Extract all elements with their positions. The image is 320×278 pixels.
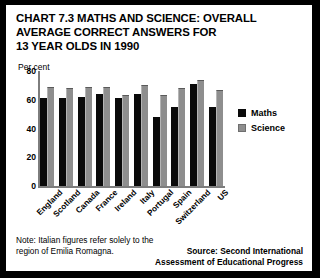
y-tick-0: 0: [14, 181, 36, 191]
bar-group: [209, 71, 225, 186]
legend-swatch-science-icon: [238, 124, 246, 132]
bar-series-area: [40, 71, 225, 186]
bar-maths: [190, 84, 197, 186]
bar-science: [47, 87, 54, 186]
bar-maths: [134, 94, 141, 186]
legend-swatch-maths-icon: [238, 109, 246, 117]
bar-group: [59, 71, 75, 186]
bar-group: [78, 71, 94, 186]
bar-science: [85, 87, 92, 186]
bar-maths: [171, 107, 178, 186]
bar-maths: [78, 97, 85, 186]
bar-group: [96, 71, 112, 186]
bar-science: [160, 95, 167, 186]
y-axis-ticks: 806040200: [10, 71, 36, 187]
bar-maths: [96, 94, 103, 186]
chart-title: CHART 7.3 MATHS AND SCIENCE: OVERALL AVE…: [16, 11, 308, 54]
chart-title-line-3: 13 YEAR OLDS IN 1990: [16, 39, 308, 53]
bar-science: [197, 80, 204, 186]
bar-science: [66, 88, 73, 186]
bar-group: [190, 71, 206, 186]
bar-group: [40, 71, 56, 186]
x-axis-labels: EnglandScotlandCanadaFranceIrelandItalyP…: [40, 188, 225, 230]
bar-group: [115, 71, 131, 186]
y-tick-60: 60: [14, 95, 36, 105]
bar-science: [178, 88, 185, 186]
bar-maths: [209, 107, 216, 186]
y-tick-40: 40: [14, 124, 36, 134]
bar-science: [141, 85, 148, 186]
chart-card: CHART 7.3 MATHS AND SCIENCE: OVERALL AVE…: [4, 3, 314, 273]
bar-group: [134, 71, 150, 186]
bar-maths: [153, 117, 160, 186]
bar-maths: [59, 98, 66, 186]
y-tick-20: 20: [14, 152, 36, 162]
chart-source: Source: Second International Assessment …: [123, 246, 303, 268]
legend-item-science: Science: [238, 123, 285, 133]
y-tick-80: 80: [14, 66, 36, 76]
x-label-us: US: [216, 188, 230, 202]
chart-legend: Maths Science: [238, 108, 285, 138]
bar-maths: [115, 98, 122, 186]
bar-maths: [40, 98, 47, 186]
legend-label-science: Science: [251, 123, 285, 133]
chart-source-line-2: Assessment of Educational Progress: [123, 257, 303, 268]
chart-title-line-2: AVERAGE CORRECT ANSWERS FOR: [16, 25, 308, 39]
bar-science: [103, 87, 110, 186]
legend-item-maths: Maths: [238, 108, 285, 118]
bar-group: [153, 71, 169, 186]
chart-title-line-1: CHART 7.3 MATHS AND SCIENCE: OVERALL: [16, 11, 308, 25]
bar-science: [122, 95, 129, 186]
bar-group: [171, 71, 187, 186]
legend-label-maths: Maths: [251, 108, 277, 118]
bar-science: [216, 90, 223, 186]
chart-source-line-1: Source: Second International: [123, 246, 303, 257]
